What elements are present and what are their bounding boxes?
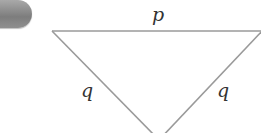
- side-right: [159, 31, 261, 133]
- label-left-side: q: [81, 80, 93, 100]
- label-right-side: q: [217, 80, 229, 100]
- triangle-diagram: [0, 0, 261, 133]
- label-top-side: p: [152, 4, 164, 24]
- side-left: [52, 31, 159, 133]
